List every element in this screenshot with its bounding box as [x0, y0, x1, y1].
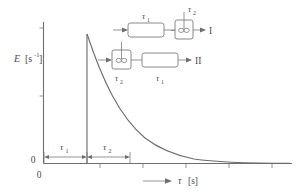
row1-plugflow-label: τ	[142, 11, 146, 21]
tau2-arrow-left-head	[87, 155, 92, 159]
interval-label-tau2-subscript: 2	[109, 148, 112, 154]
x-axis-label-symbol: τ	[178, 176, 182, 186]
row2-plugflow-label: τ	[156, 73, 160, 83]
y-axis-label-units-open: [s	[25, 53, 32, 64]
row2-inlet-arrowhead	[106, 58, 112, 63]
interval-label-tau1: τ	[60, 142, 64, 152]
row1-cstr-label: τ	[188, 4, 192, 14]
row1-outlet-arrowhead	[200, 28, 206, 33]
origin-label-y: 0	[31, 155, 36, 165]
y-axis-label-symbol: E	[13, 53, 20, 64]
row1-output-label: I	[209, 26, 212, 36]
interval-label-tau1-subscript: 1	[66, 148, 69, 154]
row1-plugflow-label-subscript: 1	[147, 17, 150, 23]
row2-output-label: II	[195, 56, 201, 66]
x-axis-label-units: [s]	[188, 176, 198, 186]
tau1-arrow-right-head	[82, 155, 87, 159]
tau2-arrow-right-head	[125, 155, 130, 159]
tau1-arrow-left-head	[44, 155, 49, 159]
row2-plugflow-label-subscript: 1	[161, 79, 164, 85]
origin-label-x: 0	[37, 170, 42, 180]
row1-inlet-arrowhead	[122, 28, 128, 33]
row1-cstr-label-subscript: 2	[193, 10, 196, 16]
row2-plugflow-box	[142, 53, 178, 67]
figure-container: E [s -1 ] 0 0 τ [s] τ 1 τ 2 τ 1 τ 2 I τ …	[0, 0, 300, 194]
row1-plugflow-box	[128, 23, 164, 37]
rtd-figure: E [s -1 ] 0 0 τ [s] τ 1 τ 2 τ 1 τ 2 I τ …	[0, 0, 300, 194]
row2-outlet-arrowhead	[186, 58, 192, 63]
interval-label-tau2: τ	[103, 142, 107, 152]
row2-cstr-label-subscript: 2	[120, 79, 123, 85]
row2-cstr-label: τ	[115, 73, 119, 83]
y-axis-label-units-close: ]	[39, 53, 42, 64]
x-axis-label-arrowhead	[165, 178, 172, 184]
